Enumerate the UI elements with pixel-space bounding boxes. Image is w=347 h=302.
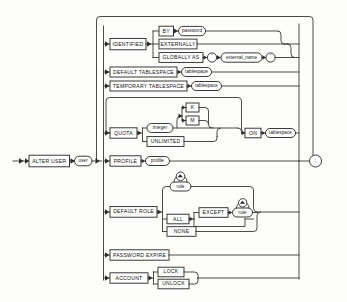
- arrow-profile: [105, 158, 109, 163]
- node-account-label: ACCOUNT: [116, 275, 143, 281]
- arrow-k: [182, 105, 185, 109]
- node-default-tablespace-operand: tablespace: [182, 68, 212, 77]
- arrow-except-role: [229, 210, 233, 215]
- rail-k-merge: [199, 108, 212, 129]
- node-all: ALL: [167, 214, 189, 224]
- arrow-quota-out: [138, 131, 142, 136]
- arrow-tts-operand: [188, 84, 192, 89]
- node-except: EXCEPT: [199, 208, 228, 218]
- node-user-label: user: [79, 158, 89, 163]
- node-except-label: EXCEPT: [203, 209, 225, 215]
- node-quota-tablespace: tablespace: [266, 129, 296, 138]
- arrow-account: [105, 275, 109, 280]
- node-temporary-tablespace: TEMPORARY TABLESPACE: [110, 81, 187, 91]
- node-semicolon-terminator: ;: [310, 155, 322, 167]
- arrow-default-role: [105, 209, 109, 214]
- node-temporary-tablespace-label: TEMPORARY TABLESPACE: [113, 83, 184, 89]
- node-quote-close: ': [266, 53, 275, 62]
- rail-collect-by: [278, 31, 284, 44]
- node-alter-user: ALTER USER: [29, 155, 70, 167]
- rail-unlock-merge: [189, 278, 198, 284]
- arrow-on-tablespace: [262, 131, 266, 136]
- node-externally-label: EXTERNALLY: [160, 41, 196, 47]
- rail-to-km-fan: [177, 116, 182, 128]
- node-profile-operand: profile: [146, 157, 170, 166]
- node-on: ON: [245, 128, 261, 138]
- node-quote-close-label: ': [270, 53, 271, 59]
- node-unlimited: UNLIMITED: [147, 137, 184, 147]
- node-password-expire: PASSWORD EXPIRE: [110, 250, 169, 260]
- node-default-tablespace-operand-label: tablespace: [185, 69, 208, 74]
- node-quote-open-label: ': [211, 53, 212, 59]
- syntax-diagram-canvas: ALTER USER user ; IDENTIFIED BY passwo: [0, 0, 347, 302]
- node-temporary-tablespace-operand: tablespace: [192, 82, 222, 91]
- node-none-label: NONE: [174, 228, 190, 234]
- node-external-name-label: external_name: [226, 55, 257, 60]
- node-profile-operand-label: profile: [151, 158, 164, 163]
- node-profile-label: PROFILE: [114, 158, 138, 164]
- node-k: K: [186, 103, 199, 112]
- arrow-quote1: [204, 55, 208, 60]
- node-password: password: [179, 26, 206, 35]
- node-except-role-label: role: [239, 210, 247, 215]
- node-globally-as: GLOBALLY AS: [159, 53, 203, 63]
- entry-arrow-group: [13, 158, 29, 164]
- node-integer: integer: [147, 124, 173, 133]
- rail-unlimited-merge: [184, 137, 217, 142]
- rail-to-on-corner: [238, 128, 242, 133]
- arrow-account-out: [149, 276, 153, 281]
- node-user: user: [75, 156, 93, 166]
- node-unlock: UNLOCK: [158, 279, 189, 289]
- arrow-extname: [217, 55, 221, 60]
- node-by-label: BY: [163, 28, 171, 34]
- node-quote-open: ': [207, 53, 216, 62]
- arrow-on: [242, 131, 245, 136]
- node-default-tablespace: DEFAULT TABLESPACE: [110, 67, 177, 77]
- node-default-role-label: DEFAULT ROLE: [113, 208, 154, 214]
- node-external-name: external_name: [221, 53, 262, 62]
- node-integer-label: integer: [153, 125, 168, 130]
- node-default-tablespace-label: DEFAULT TABLESPACE: [113, 69, 174, 75]
- node-alter-user-label: ALTER USER: [32, 158, 66, 164]
- node-except-role: role: [233, 208, 253, 217]
- node-profile: PROFILE: [110, 156, 141, 166]
- node-password-expire-label: PASSWORD EXPIRE: [113, 252, 167, 258]
- node-role-label: role: [177, 184, 185, 189]
- arrow-temp-tablespace: [105, 83, 109, 88]
- node-lock-label: LOCK: [164, 268, 179, 274]
- node-identified-label: IDENTIFIED: [113, 41, 144, 47]
- arrow-m: [182, 118, 185, 122]
- rail-collect-ext: [288, 44, 294, 58]
- node-role: role: [170, 182, 191, 191]
- node-m-label: M: [190, 117, 195, 123]
- node-default-role: DEFAULT ROLE: [110, 207, 157, 218]
- rail-except-bypass: [194, 219, 245, 227]
- arrow-all-out: [190, 217, 194, 222]
- node-externally: EXTERNALLY: [159, 39, 197, 49]
- arrow-identified: [105, 41, 109, 46]
- rail-unlimited-join: [217, 128, 221, 137]
- node-unlock-label: UNLOCK: [162, 280, 185, 286]
- node-globally-as-label: GLOBALLY AS: [163, 54, 200, 60]
- arrow-default-role-out: [158, 210, 162, 215]
- arrow-quote2: [263, 55, 267, 60]
- arrow-default-tablespace: [105, 69, 109, 74]
- arrow-dts-operand: [178, 70, 182, 75]
- arrow-password-expire: [105, 252, 109, 257]
- node-quota-label: QUOTA: [114, 130, 133, 136]
- arrow-profile-operand: [142, 159, 146, 164]
- node-password-label: password: [182, 28, 202, 33]
- arrow-identified-out: [147, 41, 151, 46]
- rail-lock-merge: [184, 272, 198, 278]
- alter-user-railroad-diagram: ALTER USER user ; IDENTIFIED BY passwo: [0, 0, 347, 302]
- arrow-password: [174, 29, 178, 34]
- node-quota: QUOTA: [110, 128, 137, 138]
- node-unlimited-label: UNLIMITED: [151, 138, 181, 144]
- node-on-label: ON: [249, 130, 257, 136]
- node-m: M: [186, 116, 199, 125]
- rail-defrole-to-role: [163, 187, 171, 213]
- rail-m-merge: [199, 121, 209, 125]
- node-identified: IDENTIFIED: [110, 38, 146, 49]
- node-k-label: K: [191, 104, 195, 110]
- node-none: NONE: [167, 227, 196, 237]
